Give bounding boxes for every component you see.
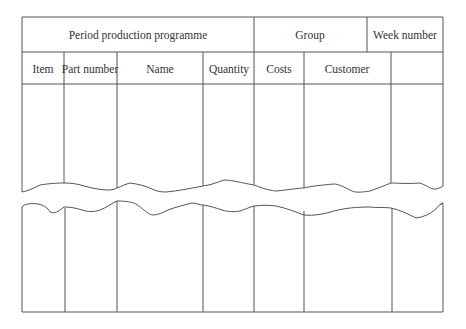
column-header-customer: Customer bbox=[325, 63, 370, 75]
production-form-diagram bbox=[0, 0, 466, 329]
tear-edge-top bbox=[22, 180, 443, 192]
column-header-item: Item bbox=[32, 63, 53, 75]
form-title: Period production programme bbox=[69, 29, 208, 41]
column-header-costs: Costs bbox=[266, 63, 292, 75]
column-header-quantity: Quantity bbox=[209, 63, 249, 75]
group-label: Group bbox=[295, 29, 324, 41]
tear-edge-bottom bbox=[22, 201, 443, 218]
column-header-part-number: Part number bbox=[62, 63, 119, 75]
week-number-label: Week number bbox=[373, 29, 437, 41]
column-header-name: Name bbox=[146, 63, 173, 75]
